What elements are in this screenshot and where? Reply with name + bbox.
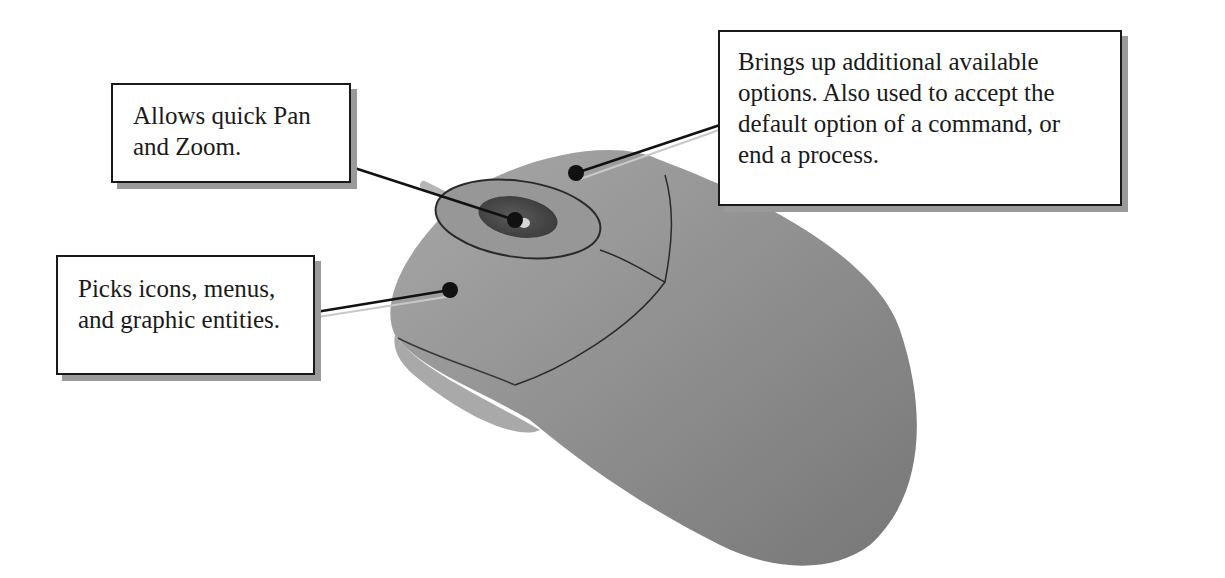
target-dot-left-button [442,282,458,298]
callout-text-line: Allows quick Pan [133,100,329,131]
mouse-diagram: Allows quick Pan and Zoom. Brings up add… [0,0,1225,578]
callout-text-line: Brings up additional available [738,46,1102,77]
target-dot-wheel [507,212,523,228]
callout-left-button: Picks icons, menus, and graphic entities… [56,255,315,375]
callout-right-button: Brings up additional available options. … [718,30,1122,206]
callout-text-line: end a process. [738,139,1102,170]
callout-text-line: and graphic entities. [78,304,293,335]
callout-scroll-wheel: Allows quick Pan and Zoom. [111,83,351,183]
callout-text-line: default option of a command, or [738,108,1102,139]
callout-text-line: options. Also used to accept the [738,77,1102,108]
target-dot-right-button [568,165,584,181]
callout-text-line: Picks icons, menus, [78,273,293,304]
callout-text-line: and Zoom. [133,131,329,162]
